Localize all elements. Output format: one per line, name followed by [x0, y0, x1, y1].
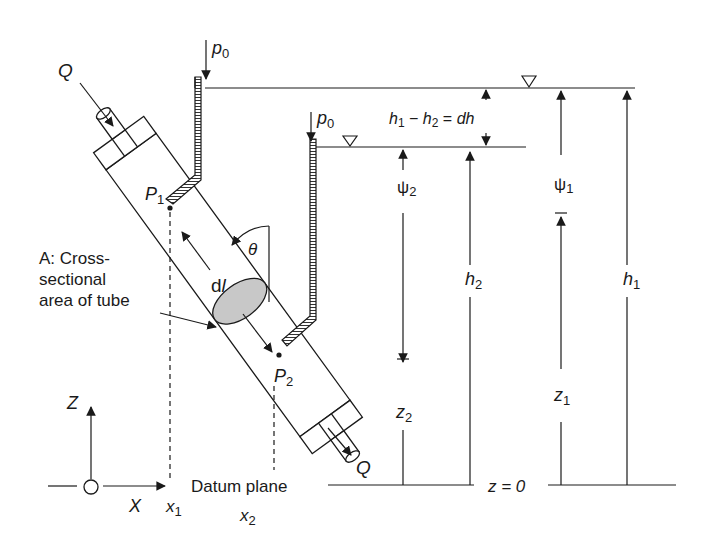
- z2-label: z2: [395, 402, 412, 425]
- x2-label: x2: [239, 506, 256, 528]
- theta-label: θ: [248, 240, 258, 259]
- flow-out-label: Q: [356, 457, 371, 478]
- area-label-line2: sectional: [39, 270, 106, 289]
- dl-label: dl: [211, 275, 227, 296]
- psi1-label: ψ1: [554, 175, 573, 196]
- darcy-tube-diagram: Q Q p0 p0 P1 P2 θ dl A: Cross- sectional…: [0, 0, 707, 539]
- p0-right-label: p0: [316, 108, 334, 131]
- area-pointer-arrow: [160, 313, 216, 327]
- head-difference-label: h1 − h2 = dh: [389, 110, 475, 130]
- flow-in-label: Q: [58, 60, 73, 81]
- area-label-line1: A: Cross-: [39, 249, 110, 268]
- h2-label: h2: [465, 269, 482, 292]
- point-p1: [167, 205, 172, 210]
- x-axis-label: X: [128, 496, 142, 516]
- z-axis-label: Z: [66, 393, 79, 413]
- h1-label: h1: [623, 269, 640, 292]
- inclined-tube: [76, 92, 380, 478]
- x1-label: x1: [165, 497, 182, 519]
- psi2-label: ψ2: [397, 178, 416, 199]
- datum-plane-label: Datum plane: [191, 477, 287, 496]
- z-equals-zero-label: z = 0: [487, 477, 526, 496]
- origin-marker: [84, 480, 98, 494]
- z1-label: z1: [553, 385, 570, 408]
- area-label-line3: area of tube: [39, 291, 130, 310]
- water-surface-icon-1: [522, 76, 536, 87]
- water-surface-icon-2: [343, 136, 357, 146]
- flow-in-arrow: [80, 83, 113, 126]
- p0-left-label: p0: [211, 38, 229, 61]
- point-p2: [276, 352, 281, 357]
